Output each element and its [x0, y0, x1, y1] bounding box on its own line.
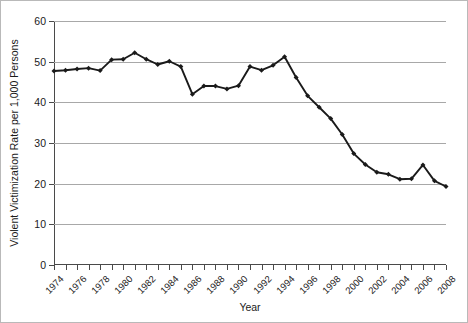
x-axis-tick-label: 1986 — [181, 273, 204, 296]
x-axis-tick-label: 1996 — [296, 273, 319, 296]
x-axis-tick — [89, 265, 90, 270]
x-axis-tick — [308, 265, 309, 270]
x-axis-tick — [204, 265, 205, 270]
x-axis-tick — [158, 265, 159, 270]
x-axis-tick — [100, 265, 101, 270]
x-axis-tick — [54, 265, 55, 270]
x-axis-tick — [331, 265, 332, 270]
x-axis-tick — [123, 265, 124, 270]
y-axis-tick-label: 60 — [34, 15, 46, 27]
series-line — [54, 53, 446, 187]
x-axis-tick — [77, 265, 78, 270]
data-point-marker — [213, 84, 218, 89]
x-axis-tick — [377, 265, 378, 270]
x-axis-tick — [169, 265, 170, 270]
x-axis-tick — [434, 265, 435, 270]
x-axis-tick — [411, 265, 412, 270]
x-axis-tick — [250, 265, 251, 270]
x-axis-tick-label: 1994 — [273, 273, 296, 296]
data-point-marker — [52, 69, 57, 74]
x-axis-tick-label: 1974 — [43, 273, 66, 296]
y-axis-tick-label: 30 — [34, 137, 46, 149]
x-axis-tick — [400, 265, 401, 270]
x-axis-tick — [319, 265, 320, 270]
x-axis-tick-label: 1992 — [250, 273, 273, 296]
x-axis-tick — [296, 265, 297, 270]
data-series-violent-victimization-rate — [54, 21, 446, 265]
x-axis-tick — [112, 265, 113, 270]
x-axis-tick — [66, 265, 67, 270]
x-axis-tick-label: 1980 — [112, 273, 135, 296]
data-point-marker — [86, 66, 91, 71]
x-axis-tick-label: 1990 — [227, 273, 250, 296]
x-axis-tick-label: 1982 — [135, 273, 158, 296]
y-axis-tick-label: 50 — [34, 56, 46, 68]
x-axis-tick — [227, 265, 228, 270]
x-axis-tick-label: 2008 — [435, 273, 458, 296]
x-axis-tick — [181, 265, 182, 270]
x-axis-tick — [273, 265, 274, 270]
chart-figure: Violent Victimization Rate per 1,000 Per… — [0, 0, 468, 323]
x-axis-tick — [215, 265, 216, 270]
x-axis-tick-label: 1984 — [158, 273, 181, 296]
x-axis-tick-label: 2006 — [412, 273, 435, 296]
x-axis-tick-label: 1976 — [66, 273, 89, 296]
x-axis-tick-label: 1978 — [89, 273, 112, 296]
x-axis-tick — [146, 265, 147, 270]
x-axis-tick — [192, 265, 193, 270]
y-axis-tick-label: 40 — [34, 96, 46, 108]
x-axis-title: Year — [54, 301, 446, 313]
x-axis-tick-label: 2004 — [389, 273, 412, 296]
x-axis-tick — [262, 265, 263, 270]
data-point-marker — [224, 86, 229, 91]
data-point-marker — [75, 66, 80, 71]
x-axis-tick — [446, 265, 447, 270]
x-axis-tick-label: 1988 — [204, 273, 227, 296]
y-axis-tick-label: 20 — [34, 178, 46, 190]
x-axis-tick — [238, 265, 239, 270]
x-axis-tick — [423, 265, 424, 270]
x-axis-tick — [388, 265, 389, 270]
x-axis-tick — [354, 265, 355, 270]
plot-area: 0102030405060 19741976197819801982198419… — [54, 21, 446, 265]
y-axis-tick-label: 0 — [40, 259, 46, 271]
x-axis-tick-label: 1998 — [319, 273, 342, 296]
x-axis-tick — [342, 265, 343, 270]
x-axis-tick-label: 2002 — [366, 273, 389, 296]
y-axis-title: Violent Victimization Rate per 1,000 Per… — [7, 21, 21, 265]
y-axis-tick-label: 10 — [34, 218, 46, 230]
x-axis-tick — [135, 265, 136, 270]
x-axis-tick-label: 2000 — [343, 273, 366, 296]
x-axis-tick — [285, 265, 286, 270]
x-axis-tick — [365, 265, 366, 270]
data-point-marker — [63, 68, 68, 73]
